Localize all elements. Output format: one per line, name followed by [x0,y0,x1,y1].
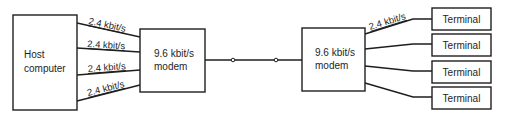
left-modem-node: 9.6 kbit/s modem [140,29,205,92]
host-label-line1: Host [24,49,45,60]
multiplexed-modem-diagram: Host computer 2.4 kbit/s 2.4 kbit/s 2.4 … [0,0,507,119]
host-link-1-rate: 2.4 kbit/s [88,15,128,34]
terminal-2: Terminal [432,34,491,56]
host-label-line2: computer [24,63,66,74]
trunk-connector-right [274,58,278,62]
terminal-link-1-rate: 2.4 kbit/s [367,10,407,32]
host-links: 2.4 kbit/s 2.4 kbit/s 2.4 kbit/s 2.4 kbi… [77,15,140,101]
right-modem-node: 9.6 kbit/s modem [302,28,365,91]
terminal-1: Terminal [432,8,491,30]
terminal-1-label: Terminal [443,14,481,25]
right-modem-label-line2: modem [315,60,348,71]
host-computer-node: Host computer [13,15,77,110]
terminal-4: Terminal [432,87,491,109]
host-link-2-rate: 2.4 kbit/s [87,38,126,51]
host-link-4-rate: 2.4 kbit/s [86,78,126,98]
terminal-link-2 [365,44,432,49]
terminal-2-label: Terminal [443,40,481,51]
trunk-link [205,58,302,62]
left-modem-label-line1: 9.6 kbit/s [154,48,194,59]
terminal-links: 2.4 kbit/s [365,10,432,97]
trunk-connector-left [231,58,235,62]
terminal-link-4 [365,83,432,97]
right-modem-label-line1: 9.6 kbit/s [315,47,355,58]
terminal-3: Terminal [432,61,491,83]
left-modem-label-line2: modem [154,61,187,72]
terminals: Terminal Terminal Terminal Terminal [432,8,491,109]
terminal-3-label: Terminal [443,67,481,78]
terminal-4-label: Terminal [443,93,481,104]
terminal-link-3 [365,66,432,71]
